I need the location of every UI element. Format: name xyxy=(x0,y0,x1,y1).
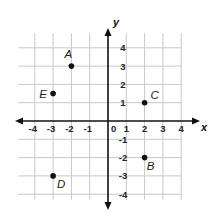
point-label: C xyxy=(151,89,160,101)
point-dot-icon xyxy=(142,100,148,106)
y-axis-up-arrow-icon xyxy=(105,28,112,36)
x-tick-label: 4 xyxy=(179,123,185,134)
y-tick-label: 1 xyxy=(120,97,126,108)
x-tick-label: -2 xyxy=(65,123,73,134)
x-axis-left-arrow-icon xyxy=(15,118,23,125)
y-tick-label: 4 xyxy=(120,42,126,53)
x-tick-label: -1 xyxy=(83,123,92,134)
y-tick-label: -2 xyxy=(119,152,127,163)
y-tick-label: -3 xyxy=(119,170,127,181)
x-axis-label: x xyxy=(200,121,208,133)
x-axis-right-arrow-icon xyxy=(192,118,200,125)
y-tick-label: 3 xyxy=(120,61,125,72)
point-dot-icon xyxy=(50,91,56,97)
x-tick-label: -4 xyxy=(29,123,38,134)
y-tick-label: 2 xyxy=(120,79,125,90)
x-tick-label: 2 xyxy=(142,123,147,134)
point-dot-icon xyxy=(69,63,75,69)
data-points: ABCDE xyxy=(39,48,159,190)
point-dot-icon xyxy=(50,173,56,179)
grid-lines xyxy=(18,33,181,200)
y-tick-label: -1 xyxy=(119,134,128,145)
x-tick-label: -3 xyxy=(47,123,55,134)
coordinate-plane: x y 0 -4-3-2-112344321-1-2-3-4 ABCDE xyxy=(0,0,217,224)
point-label: A xyxy=(64,48,73,60)
y-axis-down-arrow-icon xyxy=(105,202,112,210)
point-label: E xyxy=(39,88,47,100)
x-tick-label: 3 xyxy=(160,123,165,134)
y-tick-label: -4 xyxy=(119,189,128,200)
y-axis-label: y xyxy=(112,16,120,28)
point-label: B xyxy=(147,160,155,172)
axes: x y 0 xyxy=(15,16,208,210)
point-label: D xyxy=(57,178,65,190)
origin-label: 0 xyxy=(111,123,116,134)
x-tick-label: 1 xyxy=(124,123,130,134)
